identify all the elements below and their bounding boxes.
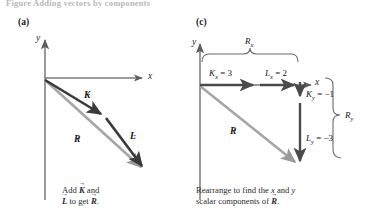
caption-c-line1: Rearrange to find the xyxy=(196,185,271,195)
caption-a-R-symbol: →R xyxy=(91,196,97,206)
caption-c-R-symbol: →R xyxy=(271,196,277,206)
panel-c-R-vector xyxy=(200,86,295,162)
panel-c-Rx-brace-label: Rx xyxy=(245,36,253,48)
panel-c-Rx-brace xyxy=(202,48,298,62)
caption-c-line2-pre: scalar components of xyxy=(196,196,271,206)
panel-c-R-label: →R xyxy=(230,126,236,136)
panel-a-L-label: →L xyxy=(130,131,136,141)
panel-c-Lx-label: Lx = 2 xyxy=(265,68,287,80)
panel-c-y-axis-label: y xyxy=(192,37,196,47)
panel-c-Ky-label: Ky = −1 xyxy=(306,89,334,101)
panel-a-L-vector xyxy=(106,118,142,166)
panel-c-caption: Rearrange to find the x and y scalar com… xyxy=(196,185,366,208)
panel-a-K-label: →K xyxy=(84,90,90,100)
panel-c-Ly-label: Ly = −3 xyxy=(306,133,333,145)
panel-a-R-label: →R xyxy=(74,134,80,144)
panel-c-Ry-brace-label: Ry xyxy=(345,110,353,122)
panel-c-x-axis-label: x xyxy=(315,77,319,87)
panel-a-R-vector xyxy=(45,80,141,167)
panel-a-K-vector xyxy=(45,80,101,114)
caption-a-K-symbol: →K xyxy=(79,185,85,195)
panel-a-y-axis-label: y xyxy=(36,33,40,43)
caption-c-y-italic: y xyxy=(291,185,295,195)
caption-a-L-symbol: →L xyxy=(62,196,67,206)
caption-a-line2-mid: to get xyxy=(67,196,91,206)
panel-a-x-axis-label: x xyxy=(148,71,152,81)
panel-c-Kx-label: Kx = 3 xyxy=(209,68,232,80)
panel-a-axes xyxy=(45,40,142,200)
panel-label-c: (c) xyxy=(196,17,207,27)
panel-a-caption: Add →K and →L to get →R. xyxy=(62,185,177,208)
figure-root: Figure Adding vectors by components (a) xyxy=(0,0,367,221)
